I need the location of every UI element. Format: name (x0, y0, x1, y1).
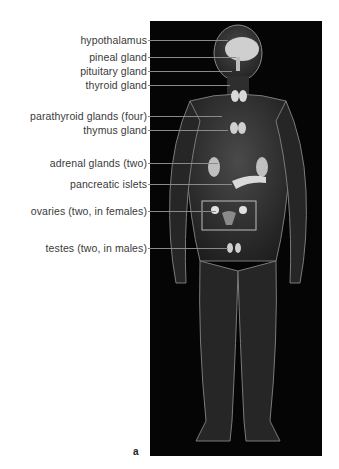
label-ovaries: ovaries (two, in females) (31, 205, 147, 217)
label-testes: testes (two, in males) (46, 242, 147, 254)
leader-line (148, 211, 216, 212)
leader-line (148, 57, 236, 58)
label-adrenal-glands: adrenal glands (two) (50, 157, 147, 169)
panel-letter: a (133, 446, 139, 457)
label-parathyroid-glands: parathyroid glands (four) (30, 110, 147, 122)
label-pituitary-gland: pituitary gland (80, 65, 147, 77)
leader-line (148, 248, 228, 249)
leader-line (148, 163, 218, 164)
label-thyroid-gland: thyroid gland (86, 79, 147, 91)
human-body-silhouette (150, 21, 322, 456)
leader-line (148, 184, 232, 185)
label-thymus-gland: thymus gland (83, 124, 147, 136)
leader-line (148, 130, 228, 131)
label-hypothalamus: hypothalamus (80, 34, 147, 46)
leader-line (148, 116, 222, 117)
leader-line (148, 85, 230, 86)
label-pancreatic-islets: pancreatic islets (70, 178, 147, 190)
leader-line (148, 71, 232, 72)
label-pineal-gland: pineal gland (89, 51, 147, 63)
body-illustration-panel (150, 21, 322, 456)
leader-line (148, 40, 228, 41)
